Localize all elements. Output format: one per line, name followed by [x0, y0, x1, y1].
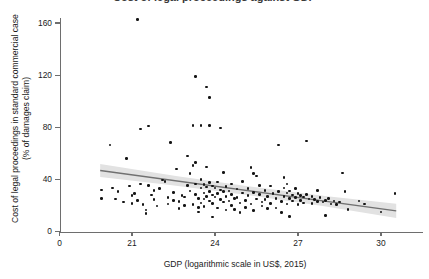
regression-fit-layer — [0, 0, 429, 279]
regression-line — [100, 171, 396, 211]
scatter-chart-figure: Cost of legal proceedings against GDP Co… — [0, 0, 429, 279]
